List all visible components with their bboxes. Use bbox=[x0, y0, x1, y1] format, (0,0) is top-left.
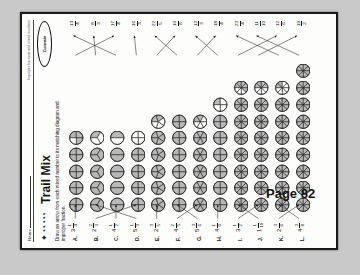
page-number: Page 82 bbox=[266, 186, 315, 201]
fraction-denominator: 4 bbox=[241, 22, 245, 24]
publisher-logo: Cuisenaire bbox=[37, 21, 52, 67]
fraction-numerator: 23 bbox=[235, 21, 239, 26]
header-divider bbox=[33, 20, 34, 242]
improper-fraction[interactable]: 174 bbox=[111, 21, 122, 26]
page-title: Trail Mix bbox=[39, 155, 53, 204]
improper-fraction[interactable]: 225 bbox=[152, 21, 163, 26]
worksheet-content: Name Improper fractions and mixed number… bbox=[22, 14, 336, 248]
improper-fraction[interactable]: 1110 bbox=[255, 21, 266, 26]
improper-fraction[interactable]: 163 bbox=[132, 21, 143, 26]
name-label-text: Name bbox=[27, 229, 32, 241]
improper-fraction[interactable]: 192 bbox=[297, 21, 308, 26]
improper-fraction[interactable]: 83 bbox=[91, 21, 102, 26]
fraction-numerator: 19 bbox=[297, 21, 301, 26]
fraction-denominator: 10 bbox=[262, 21, 266, 26]
improper-fraction[interactable]: 106 bbox=[173, 21, 184, 26]
matching-grid: A.314B.223C.412D.513E.235F.425G.536H.416… bbox=[66, 14, 328, 248]
fraction-denominator: 3 bbox=[138, 22, 142, 24]
improper-fraction[interactable]: 184 bbox=[214, 21, 225, 26]
screenshot-canvas: Name Improper fractions and mixed number… bbox=[0, 0, 360, 275]
publisher-logo-text: Cuisenaire bbox=[43, 36, 47, 52]
fraction-numerator: 10 bbox=[173, 21, 177, 26]
fraction-numerator: 11 bbox=[255, 21, 259, 26]
fraction-numerator: 8 bbox=[91, 22, 95, 24]
name-write-line[interactable] bbox=[30, 176, 31, 228]
fraction-denominator: 6 bbox=[282, 22, 286, 24]
fraction-denominator: 3 bbox=[97, 22, 101, 24]
fraction-numerator: 12 bbox=[276, 21, 280, 26]
fraction-numerator: 13 bbox=[194, 21, 198, 26]
worksheet-page: Name Improper fractions and mixed number… bbox=[20, 12, 338, 250]
fraction-denominator: 3 bbox=[200, 22, 204, 24]
fraction-denominator: 4 bbox=[117, 22, 121, 24]
fraction-numerator: 16 bbox=[132, 21, 136, 26]
improper-fraction[interactable]: 133 bbox=[194, 21, 205, 26]
fraction-numerator: 17 bbox=[111, 21, 115, 26]
fraction-numerator: 18 bbox=[214, 21, 218, 26]
fraction-numerator: 13 bbox=[70, 21, 74, 26]
improper-fraction[interactable]: 134 bbox=[70, 21, 81, 26]
decorative-trail-mix-icon: ✦ ◔◔ ◔◔◔ bbox=[40, 213, 49, 241]
fraction-denominator: 4 bbox=[76, 22, 80, 24]
fraction-denominator: 5 bbox=[159, 22, 163, 24]
improper-fraction[interactable]: 126 bbox=[276, 21, 287, 26]
fraction-denominator: 2 bbox=[303, 22, 307, 24]
fraction-denominator: 4 bbox=[220, 22, 224, 24]
improper-fraction-list: 134831741632251061331842341110126192 bbox=[66, 14, 328, 248]
name-field-label: Name bbox=[27, 176, 32, 241]
fraction-denominator: 6 bbox=[179, 22, 183, 24]
strand-label: Improper fractions and mixed numbers bbox=[27, 20, 31, 80]
fraction-numerator: 22 bbox=[152, 21, 156, 26]
improper-fraction[interactable]: 234 bbox=[235, 21, 246, 26]
